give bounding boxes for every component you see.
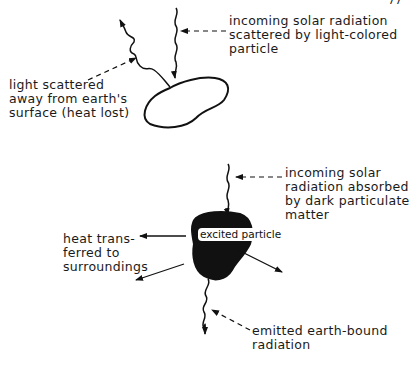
heat-arrow-right (238, 250, 282, 272)
label-incoming-scattered: incoming solar radiation scattered by li… (229, 14, 397, 56)
label-excited-particle: excited particle (198, 228, 283, 241)
incoming-solar-ray-top (175, 8, 177, 78)
light-particle-outline (145, 78, 229, 128)
incoming-solar-ray-bottom (227, 164, 229, 215)
dark-particle (192, 212, 252, 279)
label-emitted-radiation: emitted earth-bound radiation (252, 324, 388, 352)
leader-emitted (212, 310, 250, 330)
label-incoming-absorbed: incoming solar radiation absorbed by dar… (285, 166, 410, 222)
label-light-scattered-away: light scattered away from earth's surfac… (9, 78, 129, 120)
emitted-radiation-ray (203, 279, 209, 334)
scattered-light-ray (120, 20, 170, 87)
label-heat-transferred: heat trans- ferred to surroundings (63, 232, 148, 274)
